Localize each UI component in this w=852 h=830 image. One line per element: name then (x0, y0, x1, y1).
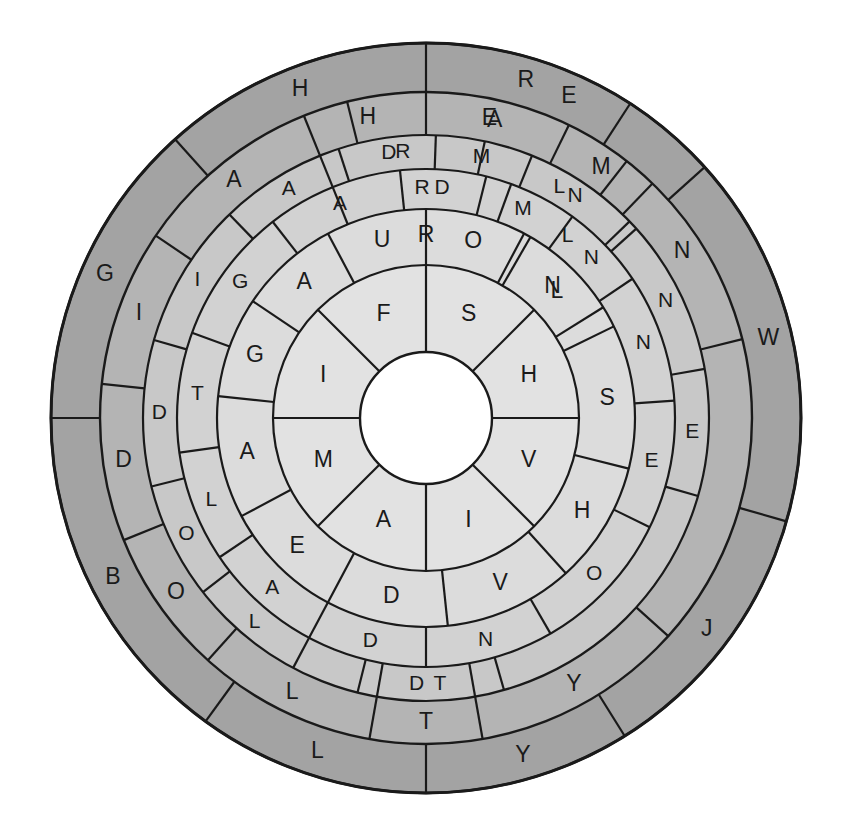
ring-2-letter: D (115, 446, 132, 472)
ring-4-letter: R (414, 175, 429, 198)
ring-3-letter: R (395, 139, 410, 162)
ring-2-letter: T (419, 708, 433, 734)
ring-3-letter: E (685, 419, 699, 442)
ring-5-letter: V (492, 569, 508, 595)
ring-5-letter: O (464, 227, 482, 253)
ring-2-letter: A (226, 166, 242, 192)
ring-1-letter: L (311, 737, 324, 763)
ring-3-letter: N (568, 183, 583, 206)
ring-4-letter: M (514, 196, 532, 219)
ring-3-letter: A (282, 176, 296, 199)
ring-3-letter: I (194, 267, 200, 290)
ring-4-letter: T (191, 381, 204, 404)
ring-5-letter: E (290, 532, 305, 558)
ring-1-letter: R (518, 66, 535, 92)
wheel-figure: EWJYLBGHRENYTLODIAHAMRLNETLDODIADMNRLNEO… (0, 0, 852, 830)
ring-5-letter: D (383, 582, 400, 608)
ring-2-letter: I (136, 299, 142, 325)
ring-4-letter: E (645, 448, 659, 471)
ring-1-letter: J (701, 615, 713, 641)
ring-3-letter: L (553, 174, 565, 197)
ring-3-letter: D (381, 140, 396, 163)
ring-6-letter: V (521, 446, 537, 472)
ring-3-letter: N (658, 288, 673, 311)
ring-2-letter: H (359, 103, 376, 129)
ring-1-letter: H (292, 75, 309, 101)
ring-6-letter: F (376, 300, 390, 326)
ring-5-letter: S (599, 384, 614, 410)
ring-2-letter: O (167, 578, 185, 604)
ring-1-letter: Y (515, 741, 530, 767)
ring-4-letter: D (363, 628, 378, 651)
ring-5-letter: G (246, 341, 264, 367)
ring-5-letter: N (544, 272, 561, 298)
ring-6-letter: S (461, 300, 476, 326)
ring-1-letter: B (105, 563, 120, 589)
ring-4-letter: N (478, 627, 493, 650)
ring-3-letter: T (434, 671, 447, 694)
ring-6-letter: H (520, 361, 537, 387)
ring-4-letter: G (232, 269, 248, 292)
ring-5-letter: U (374, 226, 391, 252)
letter-wheel-svg: EWJYLBGHRENYTLODIAHAMRLNETLDODIADMNRLNEO… (0, 0, 852, 830)
ring-2-letter: M (592, 153, 611, 179)
ring-3-letter: M (473, 144, 491, 167)
ring-3-divider (435, 135, 436, 169)
ring-3-letter: O (178, 521, 194, 544)
ring-4-letter: O (586, 561, 602, 584)
ring-4-letter: L (562, 223, 574, 246)
ring-5-letter: A (240, 438, 256, 464)
ring-2-letter: A (487, 106, 503, 132)
ring-4-letter: D (434, 175, 449, 198)
ring-6-letter: I (465, 506, 471, 532)
ring-5-letter: A (296, 268, 312, 294)
ring-4-letter: N (636, 330, 651, 353)
ring-4-letter: N (584, 245, 599, 268)
ring-6-letter: M (314, 446, 333, 472)
ring-2-letter: N (674, 237, 691, 263)
ring-2-letter: L (286, 678, 299, 704)
ring-1-letter: W (758, 324, 780, 350)
ring-2-letter: Y (566, 670, 581, 696)
ring-1-letter: G (96, 260, 114, 286)
ring-6-letter: I (320, 361, 326, 387)
ring-3-letter: D (409, 671, 424, 694)
ring-4-letter: L (206, 487, 218, 510)
ring-1-letter: E (561, 82, 576, 108)
ring-3-letter: D (152, 400, 167, 423)
ring-3-letter: L (249, 609, 261, 632)
ring-4-letter: A (333, 191, 347, 214)
ring-5-letter: H (574, 497, 591, 523)
ring-6-letter: A (376, 506, 392, 532)
ring-4-letter: A (265, 575, 279, 598)
